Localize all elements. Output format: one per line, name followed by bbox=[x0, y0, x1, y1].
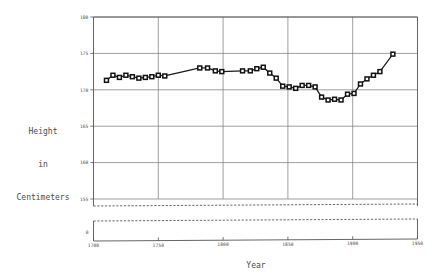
data-point-marker bbox=[346, 92, 350, 96]
ytick-label-160: 160 bbox=[80, 160, 89, 165]
data-point-marker bbox=[359, 82, 363, 86]
xtick-label-1750: 1750 bbox=[153, 243, 165, 248]
data-point-marker bbox=[313, 85, 317, 89]
xtick-label-1900: 1900 bbox=[347, 241, 359, 246]
data-point-marker bbox=[326, 98, 330, 102]
ytick-label-180: 180 bbox=[80, 15, 89, 20]
data-point-marker bbox=[220, 70, 224, 74]
tick-labels-layer: 1801751701651601550170017501800185019001… bbox=[80, 15, 423, 248]
x-axis-line bbox=[94, 239, 418, 241]
data-point-marker bbox=[111, 73, 115, 77]
data-point-marker bbox=[307, 83, 311, 87]
ytick-label-175: 175 bbox=[80, 51, 89, 56]
grid-layer bbox=[94, 17, 418, 199]
data-point-marker bbox=[163, 74, 167, 78]
data-point-marker bbox=[333, 97, 337, 101]
xtick-label-1800: 1800 bbox=[217, 242, 229, 247]
x-axis-title: Year bbox=[246, 261, 265, 270]
data-point-marker bbox=[287, 85, 291, 89]
axis-frame-layer bbox=[94, 17, 418, 206]
data-point-marker bbox=[150, 75, 154, 79]
data-point-marker bbox=[281, 84, 285, 88]
xtick-label-1950: 1950 bbox=[412, 241, 424, 246]
data-point-marker bbox=[117, 75, 121, 79]
data-point-marker bbox=[274, 76, 278, 80]
xtick-label-1850: 1850 bbox=[282, 242, 294, 247]
ytick-label-170: 170 bbox=[80, 88, 89, 93]
axis-break-zero-label: 0 bbox=[86, 230, 89, 235]
data-point-marker bbox=[206, 66, 210, 70]
data-point-marker bbox=[339, 98, 343, 102]
data-point-marker bbox=[378, 70, 382, 74]
data-point-marker bbox=[300, 83, 304, 87]
xtick-label-1700: 1700 bbox=[88, 243, 100, 248]
line-chart-plot: 1801751701651601550170017501800185019001… bbox=[0, 0, 435, 274]
data-point-marker bbox=[213, 69, 217, 73]
axis-break-dashed-lower bbox=[94, 219, 418, 221]
data-point-marker bbox=[261, 65, 265, 69]
data-point-marker bbox=[156, 73, 160, 77]
data-point-marker bbox=[130, 75, 134, 79]
data-point-marker bbox=[255, 67, 259, 71]
ytick-label-165: 165 bbox=[80, 124, 89, 129]
data-point-marker bbox=[352, 91, 356, 95]
chart-figure: Height in Centimeters 180175170165160155… bbox=[0, 0, 435, 274]
data-point-marker bbox=[124, 73, 128, 77]
data-point-marker bbox=[137, 76, 141, 80]
data-point-marker bbox=[143, 75, 147, 79]
data-point-marker bbox=[241, 69, 245, 73]
data-point-marker bbox=[268, 71, 272, 75]
data-point-marker bbox=[391, 52, 395, 56]
axis-break-dashed-upper bbox=[94, 204, 418, 206]
axis-break-layer bbox=[94, 204, 418, 241]
data-point-marker bbox=[105, 78, 109, 82]
data-point-marker bbox=[248, 69, 252, 73]
data-point-marker bbox=[365, 77, 369, 81]
data-point-marker bbox=[320, 95, 324, 99]
ytick-label-155: 155 bbox=[80, 197, 89, 202]
data-point-marker bbox=[371, 73, 375, 77]
ticks-layer bbox=[90, 17, 417, 241]
data-point-marker bbox=[198, 66, 202, 70]
data-point-marker bbox=[294, 86, 298, 90]
